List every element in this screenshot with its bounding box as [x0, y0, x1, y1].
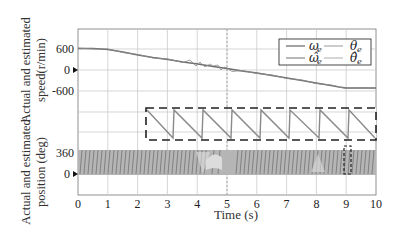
y-tick-labels: 600 0 -600 360 0	[52, 42, 78, 181]
x-tick-7: 7	[284, 197, 290, 211]
x-tick-9: 9	[343, 197, 349, 211]
position-traces	[78, 150, 376, 175]
x-tick-3: 3	[164, 197, 170, 211]
speed-y-axis-label: Actual and estimated speed(r/min)	[19, 16, 48, 122]
zero-marker-speed	[73, 67, 78, 73]
legend: ω e θ e ω̂ e θ̂ e	[279, 39, 371, 66]
legend-subscript: e	[357, 57, 362, 66]
position-ylabel-line1: Actual and estimated	[19, 118, 33, 224]
position-inset	[146, 108, 376, 140]
legend-subscript: e	[357, 45, 362, 54]
x-tick-0: 0	[75, 197, 81, 211]
y-tick-0-position: 0	[64, 167, 70, 181]
y-tick-600: 600	[56, 42, 74, 56]
x-tick-2: 2	[135, 197, 141, 211]
x-tick-1: 1	[105, 197, 111, 211]
zero-marker-position	[73, 171, 78, 177]
x-tick-8: 8	[313, 197, 319, 211]
position-y-axis-label: Actual and estimated position (deg)	[19, 118, 48, 224]
x-tick-10: 10	[370, 197, 382, 211]
speed-ylabel-line2: speed(r/min)	[34, 38, 48, 102]
y-tick-0-speed: 0	[64, 63, 70, 77]
y-tick-360: 360	[56, 146, 74, 160]
x-tick-4: 4	[194, 197, 200, 211]
legend-subscript: e	[317, 57, 322, 66]
x-axis-label: Time (s)	[214, 207, 258, 222]
position-ylabel-line2: position (deg)	[34, 137, 48, 207]
y-tick-minus-600: -600	[52, 84, 74, 98]
chart-canvas: ω e θ e ω̂ e θ̂ e 600 0 -600 360 0 0 1 2…	[0, 0, 399, 235]
speed-ylabel-line1: Actual and estimated	[19, 16, 33, 122]
